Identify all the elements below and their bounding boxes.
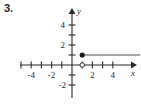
y-ticklabel-pos4: 4 (61, 20, 66, 30)
open-endpoint-dot (80, 63, 84, 67)
x-ticklabel-neg4: -4 (27, 70, 35, 80)
coordinate-plane-plot: -4 -2 2 4 4 2 -2 x y (0, 0, 141, 107)
x-ticklabel-pos2: 2 (90, 70, 95, 80)
y-ticklabel-pos2: 2 (61, 40, 66, 50)
y-axis-arrowhead (69, 8, 76, 14)
y-axis-label: y (76, 6, 81, 16)
x-axis-label: x (130, 68, 135, 78)
y-ticklabel-neg2: -2 (59, 80, 67, 90)
math-figure: 3. -4 -2 2 (0, 0, 141, 107)
closed-endpoint-dot (80, 52, 85, 57)
x-ticklabel-neg2: -2 (48, 70, 56, 80)
x-ticklabel-pos4: 4 (111, 70, 116, 80)
